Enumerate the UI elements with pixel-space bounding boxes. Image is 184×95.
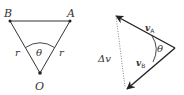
chord-geometry-diagram: B A O r r θ (3, 7, 75, 93)
label-B: B (3, 7, 12, 20)
delta-v-dotted (116, 16, 125, 87)
label-theta-right: θ (157, 43, 163, 54)
label-delta-v: Δv (97, 53, 111, 64)
label-vB: vB (136, 58, 145, 69)
label-r-right: r (59, 47, 65, 58)
vector-vB (127, 48, 175, 89)
label-O: O (35, 80, 44, 93)
radius-OA (40, 21, 70, 73)
diagram-canvas: B A O r r θ Δv vA vB θ (0, 0, 184, 95)
point-O (38, 71, 42, 75)
velocity-vector-diagram: Δv vA vB θ (97, 16, 175, 89)
label-A: A (66, 7, 75, 20)
label-r-left: r (15, 47, 21, 58)
angle-arc-right (152, 36, 156, 62)
label-vA: vA (145, 23, 155, 34)
label-theta-left: θ (36, 47, 42, 58)
